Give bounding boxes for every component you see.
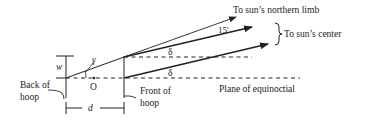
label-delta-upper: δ [168,47,173,57]
label-gamma: γ [92,55,96,65]
origin-point [93,77,96,80]
label-w: w [56,62,63,72]
equinoctial-hoop-diagram: To sun’s northern limb To sun’s center P… [0,0,366,120]
label-plane-of-equinoctial: Plane of equinoctial [219,84,295,94]
back-hoop-leader [48,90,64,99]
label-front-of-hoop-2: hoop [140,98,159,108]
label-northern-limb: To sun’s northern limb [233,5,319,15]
label-back-of-hoop-1: Back of [20,80,51,90]
northern-limb-arrow [124,17,236,57]
label-back-of-hoop-2: hoop [20,92,39,102]
label-15-arcmin: 15′ [218,25,229,35]
sun-center-brace [275,23,282,45]
label-d: d [88,103,93,113]
gamma-angle-arc [85,71,86,78]
label-front-of-hoop-1: Front of [140,86,172,96]
front-hoop-leader [124,96,136,98]
label-sun-center: To sun’s center [284,29,342,39]
label-origin: O [90,82,97,92]
label-delta-lower: δ [168,68,173,78]
